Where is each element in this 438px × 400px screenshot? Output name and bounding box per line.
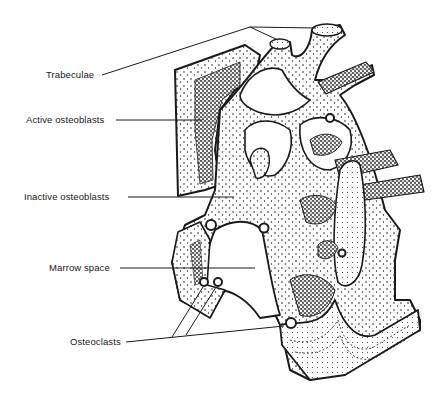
label-trabeculae: Trabeculae	[46, 69, 94, 80]
label-inactive-osteoblasts: Inactive osteoblasts	[24, 191, 109, 202]
leader-line-trabeculae-branch-1	[250, 27, 278, 40]
osteoclast-cell	[214, 278, 222, 286]
label-marrow-space: Marrow space	[49, 262, 110, 273]
osteoblast-cell	[339, 250, 346, 257]
label-active-osteoblasts: Active osteoblasts	[26, 114, 104, 125]
osteoblast-cell	[260, 224, 269, 233]
osteoclast-cell	[200, 278, 208, 286]
leader-line-trabeculae-branch-2	[250, 27, 316, 28]
trabecular-bone-diagram: Trabeculae Active osteoblasts Inactive o…	[0, 0, 438, 400]
trabecular-block	[172, 24, 424, 380]
label-osteoclasts: Osteoclasts	[70, 336, 121, 347]
osteoblast-cell	[326, 114, 334, 122]
osteoclast-cell	[286, 318, 296, 328]
osteoblast-cell	[206, 220, 216, 230]
leader-line-osteoclasts	[126, 326, 284, 342]
